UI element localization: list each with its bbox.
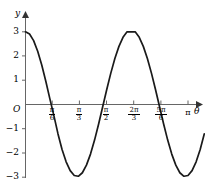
- fraction: π 3: [76, 107, 83, 123]
- fraction: 2π 3: [128, 107, 139, 123]
- x-tick-label-pi-over-6: π 6: [42, 107, 62, 123]
- fraction-denominator: 3: [128, 114, 139, 122]
- coordinate-plot: [0, 0, 205, 183]
- math-graph-figure: O y θ 3 2 1 −1 −2 −3 π 6 π 3 π 2 2π 3: [0, 0, 205, 183]
- fraction-numerator: π: [76, 107, 83, 114]
- fraction: π 6: [49, 107, 56, 123]
- fraction-numerator: π: [103, 107, 110, 114]
- y-tick-label-3: 3: [4, 26, 19, 36]
- x-tick-label-5pi-over-6: 5π 6: [150, 107, 172, 123]
- y-axis-label: y: [15, 8, 20, 18]
- fraction: 5π 6: [155, 107, 166, 123]
- x-tick-label-pi-over-3: π 3: [69, 107, 89, 123]
- fraction: π 2: [103, 107, 110, 123]
- x-tick-label-2pi-over-3: 2π 3: [123, 107, 145, 123]
- x-tick-label-pi: π: [181, 109, 195, 117]
- y-tick-label-minus-3: −3: [0, 171, 19, 181]
- fraction-numerator: 5π: [155, 107, 166, 114]
- y-axis-ticks: [22, 32, 26, 177]
- y-tick-label-2: 2: [4, 50, 19, 60]
- fraction-denominator: 6: [155, 114, 166, 122]
- x-tick-label-pi-over-2: π 2: [96, 107, 116, 123]
- fraction-denominator: 6: [49, 114, 56, 122]
- y-axis-arrow: [22, 11, 29, 18]
- fraction-denominator: 3: [76, 114, 83, 122]
- fraction-numerator: 2π: [128, 107, 139, 114]
- x-axis-ticks: [52, 101, 188, 105]
- y-tick-label-1: 1: [4, 74, 19, 84]
- origin-label: O: [13, 104, 20, 114]
- fraction-numerator: π: [49, 107, 56, 114]
- y-tick-label-minus-2: −2: [0, 147, 19, 157]
- fraction-denominator: 2: [103, 114, 110, 122]
- y-tick-label-minus-1: −1: [0, 123, 19, 133]
